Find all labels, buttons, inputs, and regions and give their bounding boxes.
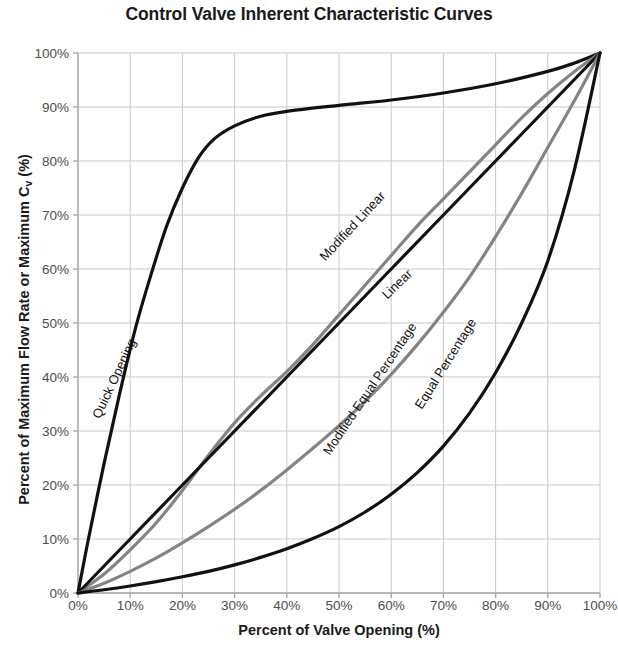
chart-figure: Control Valve Inherent Characteristic Cu…	[0, 0, 618, 650]
plot-area	[0, 0, 618, 650]
